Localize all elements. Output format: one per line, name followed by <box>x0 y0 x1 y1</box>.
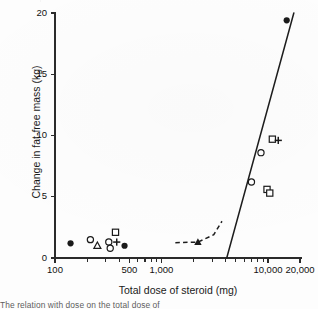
y-tick-label: 10 <box>21 129 47 140</box>
y-tick-label: 20 <box>21 7 47 18</box>
figure-container: Change in fat-free mass (kg) Total dose … <box>0 0 318 309</box>
x-tick-label: 1,000 <box>131 264 191 275</box>
y-tick-label: 15 <box>21 68 47 79</box>
plot-background <box>55 13 300 258</box>
scatter-plot <box>0 0 318 309</box>
x-tick-label: 100 <box>25 264 85 275</box>
figure-caption: The relation with dose on the total dose… <box>0 300 318 309</box>
y-tick-label: 5 <box>21 190 47 201</box>
x-tick-label: 20,000 <box>270 264 318 275</box>
y-tick-label: 0 <box>21 252 47 263</box>
